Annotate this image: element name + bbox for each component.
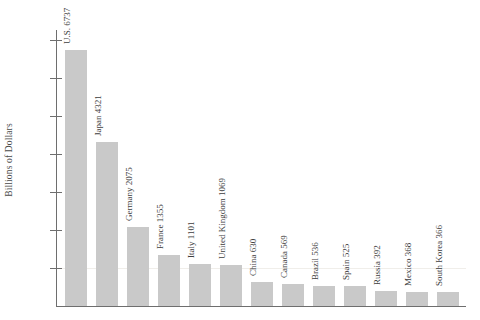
- bar[interactable]: [344, 286, 366, 306]
- bar-label: Germany 2075: [125, 167, 134, 221]
- bar-label: Brazil 536: [311, 242, 320, 280]
- bar-label: Spain 525: [342, 244, 351, 280]
- bar-label: South Korea 366: [435, 225, 444, 286]
- bar-label: Japan 4321: [94, 95, 103, 136]
- bar-chart: Billions of Dollars 7,0006,0005,0004,000…: [0, 0, 480, 320]
- bar[interactable]: [220, 265, 242, 306]
- bar[interactable]: [251, 282, 273, 306]
- bar-series: U.S. 6737Japan 4321Germany 2075France 13…: [0, 0, 480, 320]
- bar[interactable]: [282, 284, 304, 306]
- bar-label: United Kingdom 1069: [218, 178, 227, 259]
- bar[interactable]: [96, 142, 118, 306]
- bar-label: Russia 392: [373, 245, 382, 285]
- bar[interactable]: [158, 255, 180, 306]
- bar-label: Mexico 368: [404, 243, 413, 286]
- bar-label: U.S. 6737: [63, 8, 72, 44]
- bar[interactable]: [406, 292, 428, 306]
- bar[interactable]: [189, 264, 211, 306]
- bar-label: Italy 1101: [187, 222, 196, 258]
- bar[interactable]: [437, 292, 459, 306]
- bar-label: China 630: [249, 239, 258, 276]
- bar-label: France 1355: [156, 204, 165, 249]
- bar[interactable]: [375, 291, 397, 306]
- bar[interactable]: [313, 286, 335, 306]
- bar[interactable]: [65, 50, 87, 306]
- bar[interactable]: [127, 227, 149, 306]
- bar-label: Canada 569: [280, 236, 289, 279]
